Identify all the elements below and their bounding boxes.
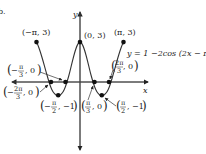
svg-text:π: π	[52, 99, 57, 107]
svg-text:3: 3	[86, 107, 90, 115]
label-pi2-neg1: ( π 2 , −1 )	[116, 99, 147, 115]
svg-text:π: π	[121, 99, 126, 107]
point-pi-3	[121, 40, 126, 45]
graph-figure: b. y x (−π, 3) (0, 3) (π, 3) y = 1 −2cos…	[0, 0, 206, 154]
svg-text:2: 2	[52, 107, 56, 115]
label-neg-pi2-neg1: ( − π 2 , −1 )	[40, 99, 78, 115]
point-pi3-0	[92, 80, 97, 85]
point-neg-pi2-neg1	[56, 93, 61, 98]
svg-text:−: −	[7, 88, 14, 97]
svg-text:−: −	[11, 66, 18, 75]
svg-text:): )	[73, 99, 78, 113]
svg-text:−: −	[44, 102, 51, 111]
label-neg-2pi3-0: ( − 2π 3 , 0 )	[3, 85, 40, 101]
svg-text:(: (	[116, 99, 121, 113]
label-pi-3: (π, 3)	[114, 28, 136, 37]
x-axis-label: x	[143, 86, 148, 95]
svg-text:3: 3	[19, 71, 23, 79]
point-neg-pi-3	[34, 40, 39, 45]
svg-text:2π: 2π	[14, 85, 23, 93]
svg-text:π: π	[86, 99, 91, 107]
point-neg-2pi3-0	[49, 80, 54, 85]
label-pi3-0: ( π 3 , 0 )	[81, 99, 108, 115]
y-axis-label: y	[72, 10, 78, 19]
svg-text:): )	[103, 99, 108, 113]
point-neg-pi3-0	[63, 80, 68, 85]
label-neg-pi-3: (−π, 3)	[22, 28, 50, 37]
svg-text:): )	[35, 85, 40, 99]
svg-text:3: 3	[16, 93, 20, 101]
point-0-3	[78, 40, 83, 45]
svg-text:): )	[134, 59, 139, 73]
svg-text:, 0: , 0	[92, 102, 102, 111]
equation-label: y = 1 −2cos (2x − π)	[126, 49, 206, 58]
svg-text:(: (	[81, 99, 86, 113]
svg-text:): )	[142, 99, 147, 113]
label-2pi3-0: ( 2π 3 , 0 )	[111, 59, 139, 75]
point-2pi3-0	[107, 80, 112, 85]
problem-label: b.	[0, 7, 6, 16]
svg-text:2: 2	[121, 107, 125, 115]
svg-text:, 0: , 0	[25, 66, 35, 75]
svg-text:, 0: , 0	[123, 62, 133, 71]
svg-text:3: 3	[117, 67, 121, 75]
label-neg-pi3-0: ( − π 3 , 0 )	[7, 63, 42, 79]
svg-text:π: π	[19, 63, 24, 71]
svg-text:): )	[37, 63, 42, 77]
label-0-3: (0, 3)	[84, 31, 106, 40]
svg-text:, 0: , 0	[23, 88, 33, 97]
point-pi2-neg1	[100, 93, 105, 98]
